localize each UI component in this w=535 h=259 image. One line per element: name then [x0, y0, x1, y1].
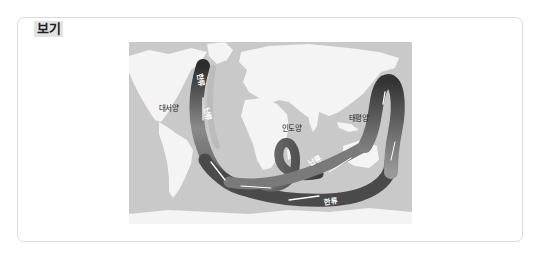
- label-indian: 인도양: [282, 122, 301, 133]
- label-atlantic: 대서양: [159, 102, 178, 113]
- label-warm-current-atlantic: 난류: [202, 106, 215, 121]
- ocean-current-map: 대서양 인도양 태평양 한류 난류 난류 한류: [129, 42, 412, 224]
- bogi-label: 보기: [34, 21, 63, 37]
- label-cold-current-north-atlantic: 한류: [195, 72, 208, 87]
- world-map-graphic: [129, 42, 412, 224]
- label-cold-current-southern: 한류: [323, 194, 337, 206]
- label-pacific: 태평양: [349, 112, 368, 123]
